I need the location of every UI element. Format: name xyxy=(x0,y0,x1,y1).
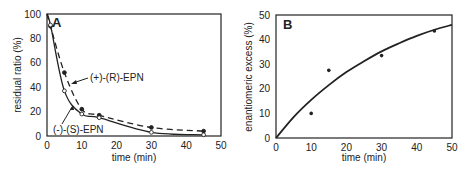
data-point-marker xyxy=(80,107,84,111)
y-tick-label: 80 xyxy=(30,33,42,44)
x-tick-label: 10 xyxy=(76,140,88,151)
label-s-epn: (-)-(S)-EPN xyxy=(53,124,104,135)
y-tick-label: 20 xyxy=(259,83,271,94)
y-tick-label: 10 xyxy=(259,108,271,119)
y-tick-label: 20 xyxy=(30,106,42,117)
y-tick-label: 40 xyxy=(30,82,42,93)
arrow-icon xyxy=(71,80,77,84)
x-tick-label: 40 xyxy=(181,140,193,151)
y-tick-label: 30 xyxy=(259,59,271,70)
data-point-marker xyxy=(150,126,154,130)
y-tick-label: 100 xyxy=(24,9,41,20)
x-tick-label: 0 xyxy=(273,142,279,153)
y-tick-label: 0 xyxy=(35,131,41,142)
x-tick-label: 40 xyxy=(411,142,423,153)
data-point-marker xyxy=(150,130,154,134)
x-tick-label: 50 xyxy=(215,140,227,151)
data-point-marker xyxy=(202,133,206,137)
x-tick-label: 30 xyxy=(146,140,158,151)
fit-curve xyxy=(276,25,452,138)
panel-b-label: B xyxy=(283,17,292,32)
data-point-marker xyxy=(380,54,384,58)
y-tick-label: 0 xyxy=(264,133,270,144)
panel-a-label: A xyxy=(52,15,62,30)
data-point-marker xyxy=(97,116,101,120)
panel-a-xlabel: time (min) xyxy=(112,152,156,163)
data-point-marker xyxy=(309,112,313,116)
panel-b-xlabel: time (min) xyxy=(342,152,386,163)
data-point-marker xyxy=(63,71,67,75)
x-tick-label: 20 xyxy=(111,140,123,151)
data-point-marker xyxy=(433,29,437,33)
data-point-marker xyxy=(327,69,331,73)
panel-a-ylabel: residual ratio (%) xyxy=(12,37,23,113)
x-tick-label: 50 xyxy=(446,142,458,153)
data-point-marker xyxy=(63,89,67,93)
x-tick-label: 0 xyxy=(44,140,50,151)
panel-b-ylabel: enantiomeric excess (%) xyxy=(243,22,254,131)
label-r-epn: (+)-(R)-EPN xyxy=(90,72,144,83)
figure: 01020304050020406080100 0102030405001020… xyxy=(0,0,471,176)
y-tick-label: 40 xyxy=(259,34,271,45)
y-tick-label: 50 xyxy=(259,10,271,21)
y-tick-label: 60 xyxy=(30,57,42,68)
x-tick-label: 10 xyxy=(306,142,318,153)
data-point-marker xyxy=(80,112,84,116)
